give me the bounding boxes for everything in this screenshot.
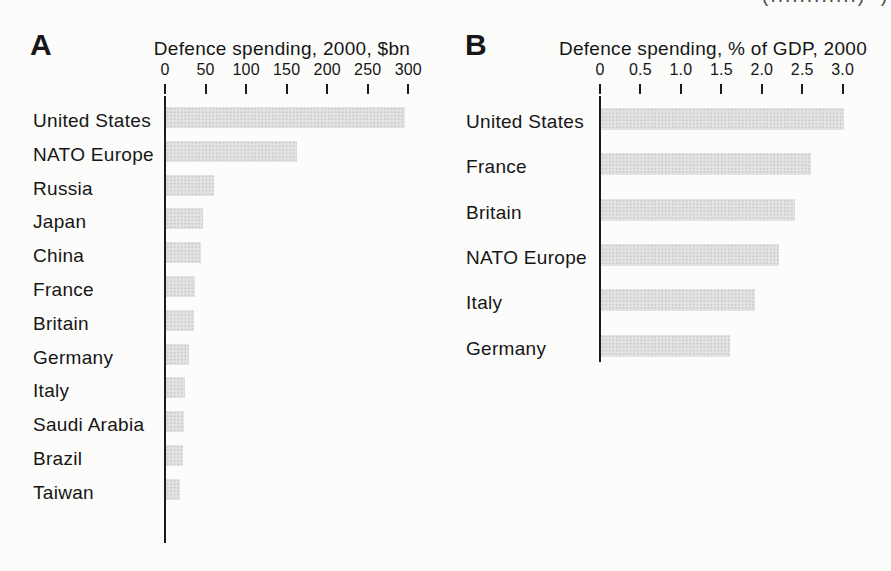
category-label: Japan — [33, 208, 86, 229]
x-axis-tick-mark — [761, 84, 763, 94]
x-axis-tick-mark — [205, 84, 207, 94]
x-axis-tick-mark — [286, 84, 288, 94]
x-axis-tick-mark — [639, 84, 641, 94]
category-label: NATO Europe — [466, 244, 587, 266]
x-axis-tick-label: 2.5 — [791, 61, 814, 79]
x-axis-tick-mark — [842, 84, 844, 94]
bar — [166, 344, 189, 365]
bar — [601, 199, 795, 221]
category-label: France — [33, 276, 94, 297]
category-label: Russia — [33, 175, 93, 196]
y-axis-line — [599, 96, 601, 362]
category-label: NATO Europe — [33, 141, 154, 162]
panel-label-b: B — [465, 28, 487, 62]
x-axis-tick-mark — [801, 84, 803, 94]
category-label: Brazil — [33, 445, 82, 466]
chart-b-title: Defence spending, % of GDP, 2000 — [559, 38, 867, 60]
bar — [166, 479, 180, 500]
x-axis-tick-mark — [326, 84, 328, 94]
bar — [601, 108, 844, 130]
category-label: China — [33, 242, 84, 263]
x-axis-tick-mark — [407, 84, 409, 94]
category-label: Italy — [33, 377, 69, 398]
cropped-text-fragment-text: (............) ) — [762, 0, 889, 7]
x-axis-tick-label: 150 — [273, 61, 300, 79]
x-axis-tick-mark — [164, 84, 166, 94]
panel-label-a: A — [30, 28, 52, 62]
category-label: France — [466, 153, 527, 175]
x-axis-tick-mark — [245, 84, 247, 94]
chart-a-title: Defence spending, 2000, $bn — [154, 38, 410, 60]
cropped-text-fragment: (............) ) — [729, 0, 889, 8]
x-axis-tick-label: 100 — [232, 61, 259, 79]
bar — [166, 310, 194, 331]
category-label: Taiwan — [33, 479, 94, 500]
x-axis-tick-label: 0.5 — [629, 61, 652, 79]
category-label: Italy — [466, 289, 502, 311]
bar — [166, 242, 201, 263]
category-label: Germany — [466, 335, 546, 357]
bar — [166, 377, 185, 398]
x-axis-tick-label: 3.0 — [831, 61, 854, 79]
x-axis-tick-label: 0 — [595, 61, 604, 79]
bar — [601, 244, 779, 266]
x-axis-tick-label: 250 — [354, 61, 381, 79]
x-axis-tick-mark — [720, 84, 722, 94]
x-axis-tick-label: 1.5 — [710, 61, 733, 79]
bar — [601, 153, 811, 175]
x-axis-tick-mark — [599, 84, 601, 94]
bar — [601, 335, 730, 357]
category-label: Saudi Arabia — [33, 411, 144, 432]
category-label: Britain — [466, 199, 522, 221]
x-axis-tick-label: 50 — [196, 61, 214, 79]
bar — [166, 107, 405, 128]
bar — [166, 141, 297, 162]
x-axis-tick-label: 200 — [314, 61, 341, 79]
x-axis-tick-mark — [367, 84, 369, 94]
bar — [166, 276, 195, 297]
x-axis-tick-label: 300 — [395, 61, 422, 79]
x-axis-tick-label: 2.0 — [750, 61, 773, 79]
x-axis-tick-label: 1.0 — [669, 61, 692, 79]
x-axis-tick-mark — [680, 84, 682, 94]
category-label: United States — [33, 107, 151, 128]
category-label: Germany — [33, 344, 113, 365]
bar — [166, 445, 183, 466]
bar — [601, 289, 755, 311]
x-axis-tick-label: 0 — [160, 61, 169, 79]
figure-page: (............) ) A Defence spending, 200… — [0, 0, 891, 571]
category-label: United States — [466, 108, 584, 130]
bar — [166, 208, 203, 229]
category-label: Britain — [33, 310, 89, 331]
bar — [166, 175, 214, 196]
bar — [166, 411, 184, 432]
